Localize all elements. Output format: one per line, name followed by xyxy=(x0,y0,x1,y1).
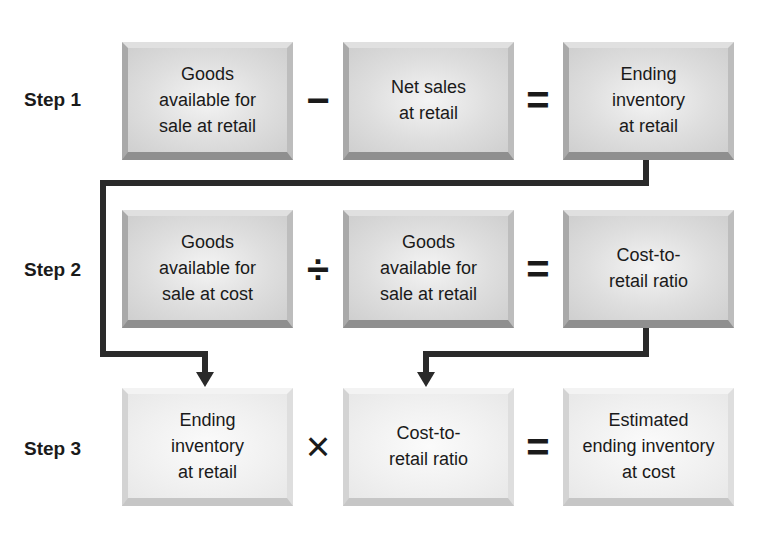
box-text: Cost-to- retail ratio xyxy=(609,242,688,294)
equals-operator: = xyxy=(518,427,558,467)
arrowhead-icon xyxy=(417,372,435,387)
box-text: Ending inventory at retail xyxy=(612,61,685,139)
goods-available-retail-box: Goods available for sale at retail xyxy=(122,42,293,160)
cost-to-retail-ratio-box: Cost-to- retail ratio xyxy=(563,210,734,328)
goods-available-cost-box: Goods available for sale at cost xyxy=(122,210,293,328)
connector-step2-to-step3 xyxy=(426,328,646,374)
box-text: Goods available for sale at cost xyxy=(159,229,256,307)
equals-operator: = xyxy=(518,249,558,289)
arrowhead-icon xyxy=(196,372,214,387)
step-1-label: Step 1 xyxy=(24,89,104,111)
step-3-label: Step 3 xyxy=(24,438,104,460)
box-text: Cost-to- retail ratio xyxy=(389,420,468,472)
box-text: Goods available for sale at retail xyxy=(380,229,477,307)
ending-inventory-retail-box-3: Ending inventory at retail xyxy=(122,388,293,506)
goods-available-retail-box-2: Goods available for sale at retail xyxy=(343,210,514,328)
equals-operator: = xyxy=(518,80,558,120)
box-text: Ending inventory at retail xyxy=(171,407,244,485)
cost-to-retail-ratio-box-3: Cost-to- retail ratio xyxy=(343,388,514,506)
minus-operator: − xyxy=(298,80,338,120)
net-sales-retail-box: Net sales at retail xyxy=(343,42,514,160)
box-text: Goods available for sale at retail xyxy=(159,61,256,139)
divide-operator: ÷ xyxy=(298,249,338,289)
step-2-label: Step 2 xyxy=(24,259,104,281)
ending-inventory-retail-box: Ending inventory at retail xyxy=(563,42,734,160)
box-text: Net sales at retail xyxy=(391,74,466,126)
multiply-operator: × xyxy=(298,427,338,467)
box-text: Estimated ending inventory at cost xyxy=(582,407,714,485)
estimated-ending-inventory-cost-box: Estimated ending inventory at cost xyxy=(563,388,734,506)
